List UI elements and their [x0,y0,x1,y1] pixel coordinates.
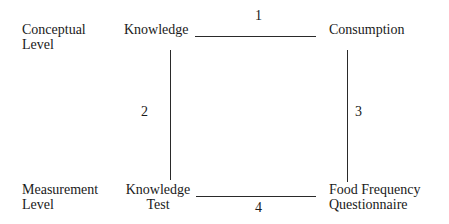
knowledge-test-line1: Knowledge [124,182,192,197]
measurement-level-line1: Measurement [22,182,98,197]
edge-4-line [196,196,316,197]
conceptual-level-line2: Level [22,37,86,52]
edge-3-label: 3 [355,104,362,119]
conceptual-level-line1: Conceptual [22,22,86,37]
edge-1-line [195,36,316,37]
ffq-line1: Food Frequency [329,182,420,197]
edge-2-line [170,50,171,180]
edge-3-line [347,50,348,182]
ffq-line2: Questionnaire [329,197,420,212]
node-consumption: Consumption [329,22,404,37]
measurement-level-label: Measurement Level [22,182,98,212]
measurement-level-line2: Level [22,197,98,212]
node-food-frequency-questionnaire: Food Frequency Questionnaire [329,182,420,212]
knowledge-test-line2: Test [124,197,192,212]
edge-1-label: 1 [255,8,262,23]
node-knowledge: Knowledge [124,22,189,37]
edge-2-label: 2 [141,104,148,119]
conceptual-level-label: Conceptual Level [22,22,86,52]
edge-4-label: 4 [255,200,262,215]
node-knowledge-test: Knowledge Test [124,182,192,212]
